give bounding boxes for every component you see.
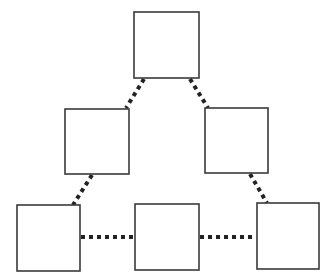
node-box-mid-left — [65, 109, 129, 174]
node-box-top — [134, 12, 199, 78]
dotted-connector-mid-right-to-bottom-right — [250, 174, 267, 203]
node-rect — [135, 204, 199, 270]
node-box-bottom-right — [257, 203, 319, 269]
dotted-connector-top-to-mid-left — [126, 79, 144, 108]
node-box-mid-right — [205, 108, 268, 173]
node-rect — [134, 12, 199, 78]
hierarchy-diagram — [0, 0, 334, 280]
node-group — [17, 12, 319, 271]
node-rect — [257, 203, 319, 269]
node-rect — [205, 108, 268, 173]
dotted-connector-mid-left-to-bottom-left — [73, 175, 92, 205]
dotted-connector-top-to-mid-right — [190, 79, 208, 108]
node-rect — [65, 109, 129, 174]
node-box-bottom-left — [17, 205, 80, 271]
node-box-bottom-middle — [135, 204, 199, 270]
node-rect — [17, 205, 80, 271]
